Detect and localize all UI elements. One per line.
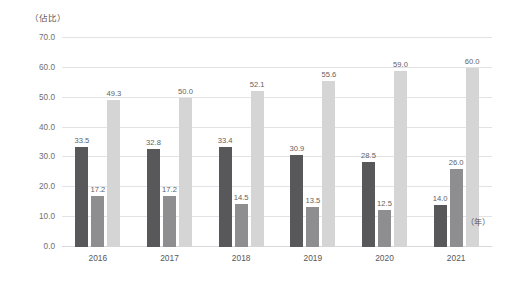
gridline: 60.0 <box>62 67 492 68</box>
bar-chart: （佔比） 70.060.050.040.030.020.010.00.033.5… <box>0 0 511 287</box>
bar-cluster: 33.414.552.1 <box>219 38 264 247</box>
bar[interactable] <box>235 204 248 247</box>
bar-slot: 59.0 <box>394 38 407 247</box>
bar-cluster: 32.817.250.0 <box>147 38 192 247</box>
gridline: 0.0 <box>62 246 492 247</box>
y-axis-tick-label: 40.0 <box>39 122 55 131</box>
x-axis-tick-label: 2019 <box>304 253 323 263</box>
bar-value-label: 14.0 <box>433 194 448 203</box>
bar[interactable] <box>306 207 319 247</box>
bar-value-label: 50.0 <box>178 87 193 96</box>
gridline: 70.0 <box>62 37 492 38</box>
bar-slot: 28.5 <box>362 38 375 247</box>
bar-cluster: 33.517.249.3 <box>75 38 120 247</box>
bar-value-label: 49.3 <box>106 89 121 98</box>
bar[interactable] <box>362 162 375 247</box>
bar[interactable] <box>378 210 391 247</box>
bar-slot: 52.1 <box>251 38 264 247</box>
bar-value-label: 14.5 <box>234 193 249 202</box>
bar[interactable] <box>75 147 88 247</box>
gridline: 40.0 <box>62 127 492 128</box>
bar-group: 33.414.552.1 <box>219 38 264 247</box>
x-axis-tick-label: 2017 <box>160 253 179 263</box>
x-axis-tick-label: 2018 <box>232 253 251 263</box>
bar-slot: 17.2 <box>163 38 176 247</box>
x-axis-tick-label: 2021 <box>447 253 466 263</box>
bar[interactable] <box>290 155 303 247</box>
bar-slot: 33.4 <box>219 38 232 247</box>
gridline: 10.0 <box>62 216 492 217</box>
bar-value-label: 59.0 <box>393 60 408 69</box>
bar[interactable] <box>179 98 192 247</box>
bar-slot: 32.8 <box>147 38 160 247</box>
y-axis-tick-label: 50.0 <box>39 92 55 101</box>
bar-slot: 50.0 <box>179 38 192 247</box>
bar-value-label: 26.0 <box>449 158 464 167</box>
bar-value-label: 32.8 <box>146 138 161 147</box>
bar-value-label: 28.5 <box>361 151 376 160</box>
x-axis-tick-label: 2020 <box>375 253 394 263</box>
plot-area: 70.060.050.040.030.020.010.00.033.517.24… <box>62 38 492 247</box>
bar-value-label: 17.2 <box>162 185 177 194</box>
bar-cluster: 28.512.559.0 <box>362 38 407 247</box>
bar-slot: 12.5 <box>378 38 391 247</box>
bar-group: 33.517.249.3 <box>75 38 120 247</box>
y-axis-unit-label: （佔比） <box>30 11 66 23</box>
bar-slot: 30.9 <box>290 38 303 247</box>
gridline: 50.0 <box>62 97 492 98</box>
bar-slot: 17.2 <box>91 38 104 247</box>
bar-value-label: 13.5 <box>305 196 320 205</box>
x-axis-tick-label: 2016 <box>89 253 108 263</box>
bar-value-label: 52.1 <box>250 80 265 89</box>
bar-slot: 26.0 <box>450 38 463 247</box>
bar-value-label: 55.6 <box>321 70 336 79</box>
bar-slot: 55.6 <box>322 38 335 247</box>
bar-cluster: 30.913.555.6 <box>290 38 335 247</box>
bar-slot: 33.5 <box>75 38 88 247</box>
x-axis-unit-label: （年） <box>466 215 490 227</box>
bar-value-label: 33.4 <box>218 136 233 145</box>
gridline: 30.0 <box>62 156 492 157</box>
bar[interactable] <box>450 169 463 247</box>
bar-group: 30.913.555.6 <box>290 38 335 247</box>
bar-slot: 14.5 <box>235 38 248 247</box>
bar[interactable] <box>394 71 407 247</box>
bar[interactable] <box>219 147 232 247</box>
bar-group: 32.817.250.0 <box>147 38 192 247</box>
bar-value-label: 12.5 <box>377 199 392 208</box>
bar-slot: 13.5 <box>306 38 319 247</box>
y-axis-tick-label: 20.0 <box>39 182 55 191</box>
bar[interactable] <box>163 196 176 247</box>
bar-value-label: 60.0 <box>465 57 480 66</box>
bar[interactable] <box>322 81 335 247</box>
bar[interactable] <box>91 196 104 247</box>
bar[interactable] <box>251 91 264 247</box>
y-axis-tick-label: 10.0 <box>39 212 55 221</box>
bar[interactable] <box>147 149 160 247</box>
y-axis-tick-label: 0.0 <box>44 242 55 251</box>
bar-value-label: 33.5 <box>74 136 89 145</box>
bar-value-label: 30.9 <box>289 144 304 153</box>
gridline: 20.0 <box>62 186 492 187</box>
bar-slot: 49.3 <box>107 38 120 247</box>
y-axis-tick-label: 70.0 <box>39 33 55 42</box>
bar-slot: 14.0 <box>434 38 447 247</box>
bar-value-label: 17.2 <box>90 185 105 194</box>
bar[interactable] <box>434 205 447 247</box>
bar[interactable] <box>107 100 120 247</box>
y-axis-tick-label: 30.0 <box>39 152 55 161</box>
y-axis-tick-label: 60.0 <box>39 62 55 71</box>
bar-group: 28.512.559.0 <box>362 38 407 247</box>
